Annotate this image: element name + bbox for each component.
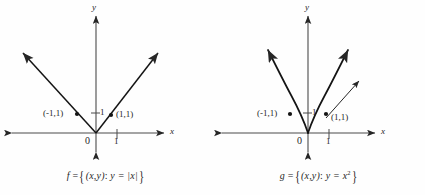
x-tick-label-1: 1 bbox=[326, 137, 331, 146]
point-marker-neg1-1 bbox=[75, 112, 79, 116]
origin-label: 0 bbox=[85, 136, 90, 146]
caption-colon: : bbox=[105, 170, 108, 181]
x-tick-label-1: 1 bbox=[114, 137, 119, 146]
caption-equals: = bbox=[288, 170, 294, 181]
panel-absolute-value: y x 0 1 1 (-1,1) (1,1) f ={(x,y): y = |x… bbox=[0, 0, 212, 195]
caption-function-name: g bbox=[280, 170, 285, 181]
abs-left-branch bbox=[23, 53, 96, 133]
caption-ordered-pair: (x,y) bbox=[301, 170, 320, 181]
caption-function-name: f bbox=[67, 170, 70, 181]
x-axis-label: x bbox=[170, 127, 174, 136]
point-label-neg1-1: (-1,1) bbox=[257, 109, 277, 118]
parabola-left-branch bbox=[268, 50, 308, 133]
x-axis-label: x bbox=[381, 127, 385, 136]
figure-root: y x 0 1 1 (-1,1) (1,1) f ={(x,y): y = |x… bbox=[0, 0, 425, 195]
y-axis-label: y bbox=[92, 3, 96, 12]
caption-colon: : bbox=[320, 170, 323, 181]
point-label-1-1: (1,1) bbox=[331, 113, 348, 122]
caption-close-brace: } bbox=[139, 168, 144, 185]
caption-open-brace: { bbox=[295, 168, 300, 185]
caption-parabola: g ={(x,y): y = x2} bbox=[213, 168, 425, 185]
parabola-plot bbox=[213, 0, 425, 195]
caption-absolute-value: f ={(x,y): y = |x|} bbox=[0, 168, 212, 185]
caption-exponent: 2 bbox=[347, 169, 350, 176]
caption-ordered-pair: (x,y) bbox=[86, 170, 105, 181]
point-marker-neg1-1 bbox=[288, 112, 292, 116]
caption-equals: = bbox=[72, 170, 78, 181]
point-marker-1-1 bbox=[324, 112, 328, 116]
y-tick-label-1: 1 bbox=[100, 108, 105, 117]
origin-label: 0 bbox=[297, 136, 302, 146]
abs-right-branch bbox=[96, 53, 158, 133]
caption-close-brace: } bbox=[352, 168, 357, 185]
point-label-1-1: (1,1) bbox=[116, 110, 133, 119]
caption-relation: y = x bbox=[326, 170, 348, 181]
absolute-value-plot bbox=[0, 0, 212, 195]
point-marker-1-1 bbox=[109, 113, 113, 117]
point-label-neg1-1: (-1,1) bbox=[43, 109, 63, 118]
caption-open-brace: { bbox=[79, 168, 84, 185]
caption-relation: y = |x| bbox=[110, 170, 138, 181]
y-axis-label: y bbox=[305, 3, 309, 12]
y-tick-label-1: 1 bbox=[312, 108, 317, 117]
panel-parabola: y x 0 1 1 (-1,1) (1,1) g ={(x,y): y = x2… bbox=[213, 0, 425, 195]
